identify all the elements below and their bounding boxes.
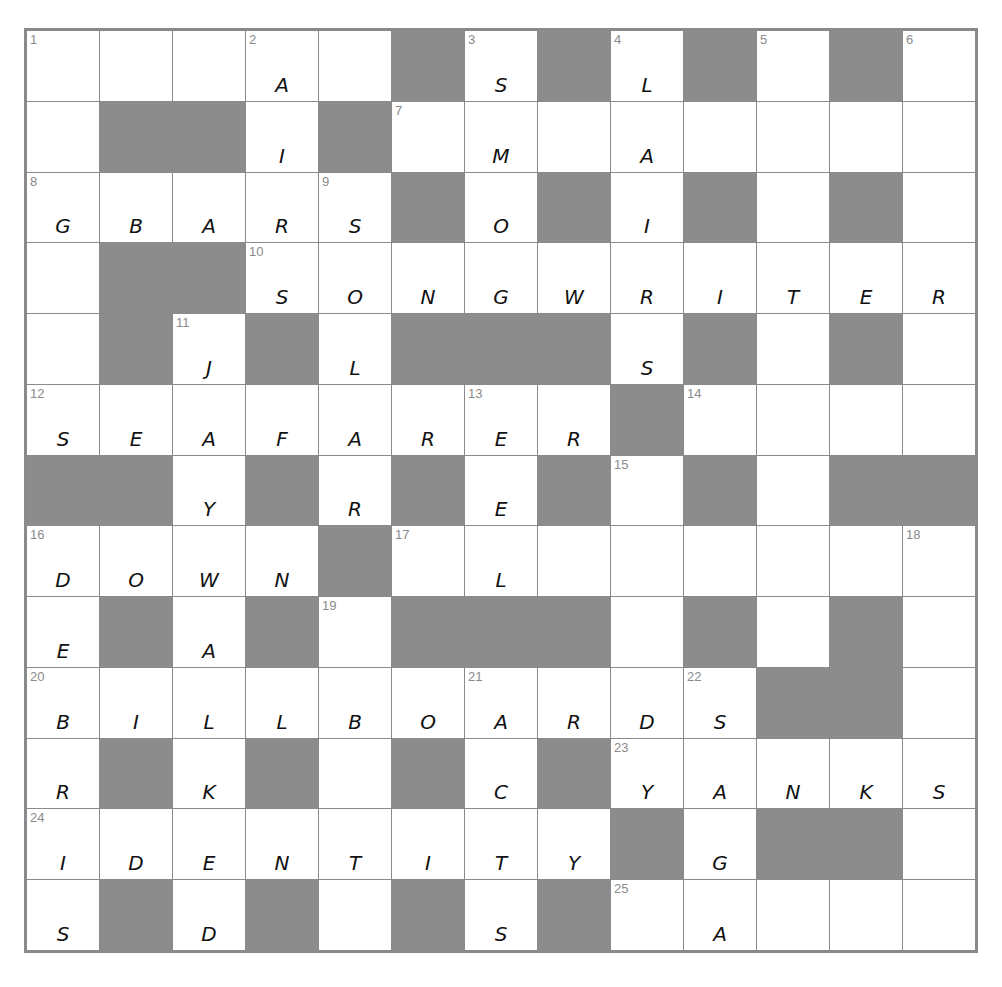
letter-cell[interactable] (538, 526, 610, 596)
letter-cell[interactable] (684, 102, 756, 172)
letter-cell[interactable] (830, 880, 902, 950)
letter-cell[interactable]: R (538, 668, 610, 738)
letter-cell[interactable] (757, 597, 829, 667)
letter-cell[interactable]: E (27, 597, 99, 667)
letter-cell[interactable] (830, 385, 902, 455)
letter-cell[interactable]: L (465, 526, 537, 596)
letter-cell[interactable] (903, 880, 975, 950)
letter-cell[interactable]: F (246, 385, 318, 455)
letter-cell[interactable] (830, 526, 902, 596)
letter-cell[interactable]: 3S (465, 31, 537, 101)
letter-cell[interactable] (757, 314, 829, 384)
letter-cell[interactable] (903, 668, 975, 738)
letter-cell[interactable]: S (611, 314, 683, 384)
letter-cell[interactable] (684, 526, 756, 596)
letter-cell[interactable]: 23Y (611, 739, 683, 809)
letter-cell[interactable]: A (173, 385, 245, 455)
letter-cell[interactable]: S (27, 880, 99, 950)
letter-cell[interactable]: 17 (392, 526, 464, 596)
letter-cell[interactable]: L (173, 668, 245, 738)
letter-cell[interactable] (903, 314, 975, 384)
letter-cell[interactable]: S (465, 880, 537, 950)
letter-cell[interactable]: O (100, 526, 172, 596)
letter-cell[interactable]: T (757, 243, 829, 313)
letter-cell[interactable] (757, 456, 829, 526)
letter-cell[interactable]: 4L (611, 31, 683, 101)
letter-cell[interactable] (757, 880, 829, 950)
letter-cell[interactable] (903, 809, 975, 879)
letter-cell[interactable]: E (173, 809, 245, 879)
letter-cell[interactable]: 22S (684, 668, 756, 738)
letter-cell[interactable]: G (684, 809, 756, 879)
letter-cell[interactable]: M (465, 102, 537, 172)
letter-cell[interactable] (830, 102, 902, 172)
letter-cell[interactable]: 11J (173, 314, 245, 384)
letter-cell[interactable]: 2A (246, 31, 318, 101)
letter-cell[interactable]: A (173, 173, 245, 243)
letter-cell[interactable]: 19 (319, 597, 391, 667)
letter-cell[interactable]: T (465, 809, 537, 879)
letter-cell[interactable]: B (319, 668, 391, 738)
letter-cell[interactable]: K (173, 739, 245, 809)
letter-cell[interactable]: R (319, 456, 391, 526)
letter-cell[interactable]: B (100, 173, 172, 243)
letter-cell[interactable]: 16D (27, 526, 99, 596)
letter-cell[interactable]: E (465, 456, 537, 526)
letter-cell[interactable]: I (611, 173, 683, 243)
letter-cell[interactable]: W (538, 243, 610, 313)
letter-cell[interactable] (903, 102, 975, 172)
letter-cell[interactable] (757, 385, 829, 455)
letter-cell[interactable]: E (100, 385, 172, 455)
letter-cell[interactable]: S (903, 739, 975, 809)
letter-cell[interactable]: A (611, 102, 683, 172)
letter-cell[interactable]: C (465, 739, 537, 809)
letter-cell[interactable]: G (465, 243, 537, 313)
letter-cell[interactable]: O (319, 243, 391, 313)
letter-cell[interactable]: R (538, 385, 610, 455)
letter-cell[interactable] (903, 385, 975, 455)
letter-cell[interactable] (757, 102, 829, 172)
letter-cell[interactable]: O (465, 173, 537, 243)
letter-cell[interactable]: R (246, 173, 318, 243)
letter-cell[interactable]: N (246, 809, 318, 879)
letter-cell[interactable]: D (611, 668, 683, 738)
letter-cell[interactable]: 20B (27, 668, 99, 738)
letter-cell[interactable]: N (246, 526, 318, 596)
letter-cell[interactable]: 21A (465, 668, 537, 738)
letter-cell[interactable]: A (319, 385, 391, 455)
letter-cell[interactable]: R (392, 385, 464, 455)
letter-cell[interactable]: D (100, 809, 172, 879)
letter-cell[interactable]: Y (173, 456, 245, 526)
letter-cell[interactable]: O (392, 668, 464, 738)
letter-cell[interactable]: D (173, 880, 245, 950)
letter-cell[interactable] (319, 880, 391, 950)
letter-cell[interactable]: E (830, 243, 902, 313)
letter-cell[interactable]: 12S (27, 385, 99, 455)
letter-cell[interactable]: R (27, 739, 99, 809)
letter-cell[interactable]: R (903, 243, 975, 313)
letter-cell[interactable]: I (392, 809, 464, 879)
letter-cell[interactable]: 8G (27, 173, 99, 243)
letter-cell[interactable]: 25 (611, 880, 683, 950)
letter-cell[interactable] (903, 173, 975, 243)
letter-cell[interactable] (757, 173, 829, 243)
letter-cell[interactable] (611, 526, 683, 596)
letter-cell[interactable]: 6 (903, 31, 975, 101)
letter-cell[interactable]: A (173, 597, 245, 667)
letter-cell[interactable] (100, 31, 172, 101)
letter-cell[interactable]: 7 (392, 102, 464, 172)
letter-cell[interactable]: 5 (757, 31, 829, 101)
letter-cell[interactable]: N (392, 243, 464, 313)
letter-cell[interactable]: R (611, 243, 683, 313)
letter-cell[interactable]: 14 (684, 385, 756, 455)
letter-cell[interactable]: 13E (465, 385, 537, 455)
letter-cell[interactable]: W (173, 526, 245, 596)
letter-cell[interactable]: I (684, 243, 756, 313)
letter-cell[interactable] (611, 597, 683, 667)
letter-cell[interactable]: A (684, 880, 756, 950)
letter-cell[interactable]: T (319, 809, 391, 879)
letter-cell[interactable]: 18 (903, 526, 975, 596)
letter-cell[interactable]: K (830, 739, 902, 809)
letter-cell[interactable] (27, 314, 99, 384)
letter-cell[interactable] (538, 102, 610, 172)
